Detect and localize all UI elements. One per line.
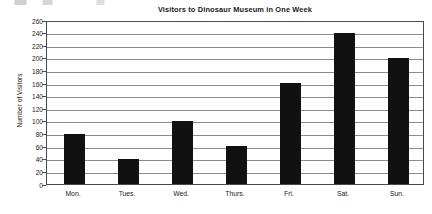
x-axis-tick-label: Wed. (154, 190, 208, 197)
bar-chart-figure: Visitors to Dinosaur Museum in One Week … (0, 0, 432, 214)
y-axis-tick-label: 260 (3, 18, 43, 25)
x-axis-tick-label: Fri. (262, 190, 316, 197)
y-axis-tick-label: 100 (3, 118, 43, 125)
y-axis-tick-label: 0 (3, 182, 43, 189)
y-axis-tick-label: 20 (3, 169, 43, 176)
y-axis-tick-label: 120 (3, 106, 43, 113)
bar (334, 33, 355, 184)
y-axis-tick-label: 240 (3, 30, 43, 37)
y-axis-tick-label: 80 (3, 131, 43, 138)
plot-area (46, 21, 424, 185)
x-axis-tick-label: Mon. (46, 190, 100, 197)
y-axis-tick-label: 160 (3, 81, 43, 88)
y-axis-tick-label: 200 (3, 55, 43, 62)
y-axis-tick-label: 180 (3, 68, 43, 75)
y-axis-tick-label: 220 (3, 43, 43, 50)
x-axis-tick-labels: Mon.Tues.Wed.Thurs.Fri.Sat.Sun. (46, 190, 424, 204)
y-axis-tick-label: 60 (3, 144, 43, 151)
bar (172, 121, 193, 184)
bar (280, 83, 301, 184)
x-axis-tick-label: Tues. (100, 190, 154, 197)
bar (388, 58, 409, 184)
x-axis-tick-label: Sun. (370, 190, 424, 197)
x-axis-tick-label: Sat. (316, 190, 370, 197)
bar (226, 146, 247, 184)
x-axis-tick-label: Thurs. (208, 190, 262, 197)
y-axis-tick-label: 40 (3, 156, 43, 163)
bars-layer (47, 22, 423, 184)
bar (118, 159, 139, 184)
bar (64, 134, 85, 184)
y-axis-tick-label: 140 (3, 93, 43, 100)
